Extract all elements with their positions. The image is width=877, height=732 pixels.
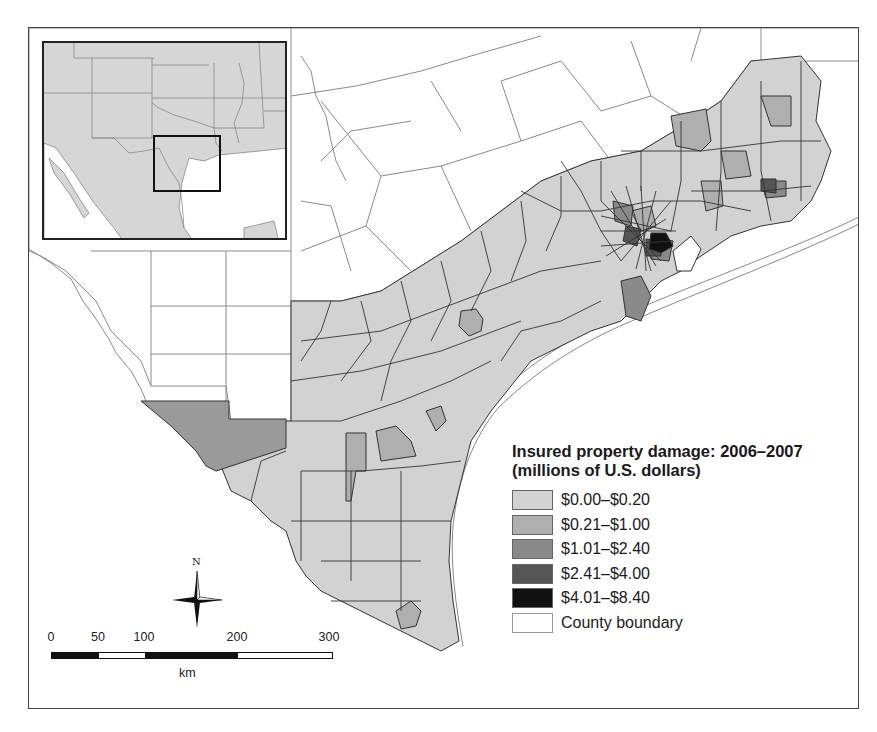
scale-tick-100: 100 bbox=[134, 630, 155, 644]
legend-item-class3: $2.41–$4.00 bbox=[512, 562, 859, 587]
scale-bar: 0 50 100 200 300 km bbox=[45, 630, 345, 680]
legend-item-class0: $0.00–$0.20 bbox=[512, 488, 859, 513]
scale-track bbox=[51, 652, 333, 659]
scale-tick-0: 0 bbox=[48, 630, 55, 644]
legend-title: Insured property damage: 2006–2007 (mill… bbox=[512, 442, 859, 480]
legend-label: $0.21–$1.00 bbox=[561, 516, 650, 534]
legend: Insured property damage: 2006–2007 (mill… bbox=[512, 442, 859, 635]
inset-locator-map bbox=[42, 41, 287, 240]
legend-label: County boundary bbox=[561, 614, 683, 632]
legend-item-class1: $0.21–$1.00 bbox=[512, 513, 859, 538]
legend-item-class4: $4.01–$8.40 bbox=[512, 586, 859, 611]
legend-swatch bbox=[512, 564, 553, 584]
legend-label: $2.41–$4.00 bbox=[561, 565, 650, 583]
legend-swatch bbox=[512, 613, 553, 633]
legend-label: $1.01–$2.40 bbox=[561, 540, 650, 558]
scale-unit: km bbox=[179, 666, 196, 680]
legend-label: $0.00–$0.20 bbox=[561, 491, 650, 509]
scale-tick-50: 50 bbox=[91, 630, 105, 644]
compass-rose-icon bbox=[167, 566, 227, 636]
inset-map-svg bbox=[44, 43, 287, 240]
legend-title-line2: (millions of U.S. dollars) bbox=[512, 461, 859, 480]
north-arrow: N bbox=[167, 556, 227, 626]
legend-item-class2: $1.01–$2.40 bbox=[512, 537, 859, 562]
scale-tick-300: 300 bbox=[319, 630, 340, 644]
legend-title-line1: Insured property damage: 2006–2007 bbox=[512, 442, 859, 461]
legend-swatch bbox=[512, 539, 553, 559]
map-frame: N 0 50 100 200 300 km Insured property d… bbox=[28, 27, 859, 709]
legend-label: $4.01–$8.40 bbox=[561, 589, 650, 607]
legend-item-county-boundary: County boundary bbox=[512, 611, 859, 636]
legend-swatch bbox=[512, 490, 553, 510]
legend-swatch bbox=[512, 515, 553, 535]
legend-swatch bbox=[512, 588, 553, 608]
scale-tick-200: 200 bbox=[227, 630, 248, 644]
